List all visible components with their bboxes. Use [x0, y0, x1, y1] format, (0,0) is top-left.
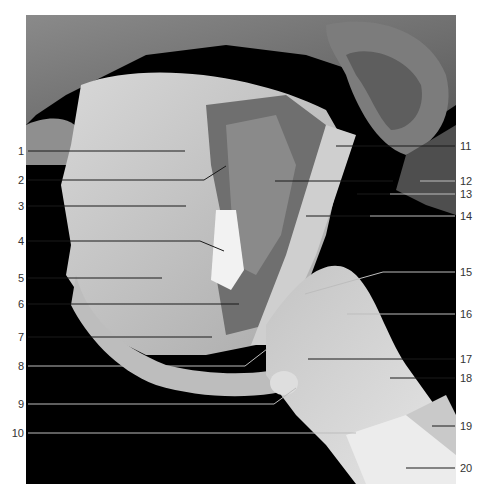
leader-line-4	[28, 241, 224, 251]
label-2: 2	[8, 174, 24, 186]
label-18: 18	[460, 372, 472, 384]
leader-lines	[0, 0, 492, 494]
leader-line-9	[28, 388, 296, 404]
label-14: 14	[460, 210, 472, 222]
label-11: 11	[460, 140, 471, 152]
label-12: 12	[460, 175, 472, 187]
label-19: 19	[460, 420, 472, 432]
label-20: 20	[460, 462, 472, 474]
label-8: 8	[8, 360, 24, 372]
label-15: 15	[460, 266, 472, 278]
anatomy-figure: 1 2 3 4 5 6 7 8 9 10 11 12 13 14 15 16 1…	[0, 0, 492, 494]
label-3: 3	[8, 200, 24, 212]
label-16: 16	[460, 308, 472, 320]
label-13: 13	[460, 188, 472, 200]
label-4: 4	[8, 235, 24, 247]
label-5: 5	[8, 272, 24, 284]
label-7: 7	[8, 331, 24, 343]
label-17: 17	[460, 353, 472, 365]
leader-line-15	[305, 272, 455, 294]
label-10: 10	[8, 427, 24, 439]
label-6: 6	[8, 298, 24, 310]
label-1: 1	[8, 145, 24, 157]
label-9: 9	[8, 398, 24, 410]
leader-line-8	[28, 349, 267, 366]
leader-line-2	[28, 166, 226, 180]
